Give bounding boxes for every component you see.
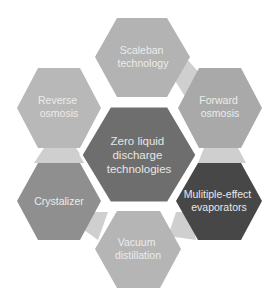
hex-scaleban: Scaleban technology [95, 18, 190, 97]
hex-multiple-effect-label: Mulitiple-effect evaporators [184, 188, 254, 213]
hex-scaleban-label: Scaleban technology [118, 44, 170, 69]
hex-center: Zero liquid discharge technologies [81, 106, 197, 203]
hex-crystalizer-label: Crystalizer [34, 195, 84, 207]
hex-vacuum-distillation-label: Vacuum distillation [115, 236, 161, 261]
hexagon-diagram: Scaleban technology Reverse osmosis Forw… [0, 0, 276, 305]
hex-forward-osmosis-label: Forward osmosis [199, 94, 240, 119]
hex-center-label: Zero liquid discharge technologies [107, 135, 172, 175]
hex-reverse-osmosis-label: Reverse osmosis [38, 94, 80, 119]
connector-reverse-crystalizer [34, 148, 86, 163]
hex-reverse-osmosis: Reverse osmosis [17, 68, 101, 148]
connector-forward-multiple [198, 148, 246, 163]
hex-vacuum-distillation: Vacuum distillation [95, 211, 181, 288]
